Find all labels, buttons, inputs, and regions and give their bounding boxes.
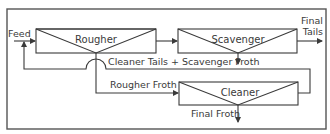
rougher-froth-label: Rougher Froth	[110, 79, 177, 90]
flotation-flowsheet: Feed Rougher Scavenger Cleaner Final Tai…	[0, 0, 330, 134]
cleaner-label: Cleaner	[221, 87, 261, 98]
final-tails-label-line2: Tails	[302, 26, 323, 37]
scavenger-label: Scavenger	[212, 34, 266, 45]
final-tails-label-line1: Final	[301, 15, 323, 26]
feed-label: Feed	[8, 28, 31, 39]
rougher-label: Rougher	[75, 34, 118, 45]
final-froth-label: Final Froth	[191, 108, 240, 119]
recycle-label: Cleaner Tails + Scavenger Froth	[108, 56, 259, 67]
